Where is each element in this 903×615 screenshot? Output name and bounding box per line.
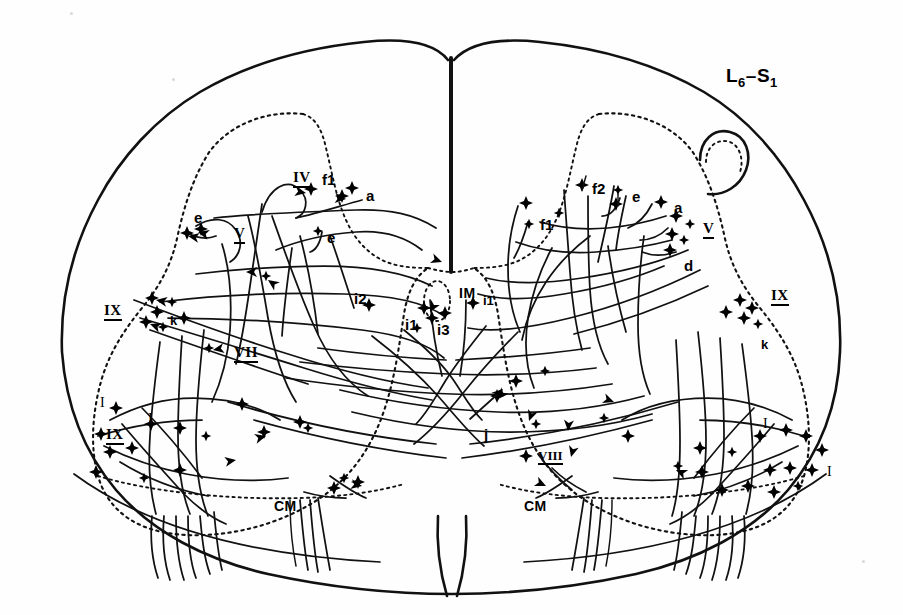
axon-label-k-right: k — [761, 338, 768, 351]
segment-level-label: L6–S1 — [726, 66, 778, 89]
axon-label-i1-right: i1 — [483, 294, 494, 307]
lamina-label-I-right-b: I — [827, 465, 832, 479]
pointer-arrow-j — [470, 385, 506, 419]
axon-label-f1-left: f1 — [322, 172, 335, 187]
axon-label-e-right-1: e — [632, 189, 640, 204]
axon-label-i2: i2 — [354, 291, 367, 306]
lamina-label-I-left-a: I — [100, 396, 105, 410]
lamina-label-IX-right-dorsal: IX — [771, 288, 789, 306]
gray-matter-left — [93, 113, 428, 535]
scan-speck — [862, 560, 865, 563]
axon-label-f1-right: f1 — [540, 217, 553, 232]
lamina-label-IV-left: IV — [293, 170, 311, 188]
axon-label-a-left: a — [366, 188, 374, 203]
lissauer-hook-right-inner — [706, 141, 742, 172]
axon-label-e-left-1: e — [194, 210, 202, 225]
lamina-label-VIII-right: VIII — [538, 449, 563, 465]
lamina-label-VII-left: VII — [234, 345, 258, 363]
axon-label-j: j — [484, 427, 488, 442]
figure-root: .ol{fill:none;stroke:#111;stroke-width:2… — [0, 0, 903, 615]
CM-nucleus-fibers — [290, 454, 612, 572]
axon-label-i3: i3 — [437, 322, 450, 337]
nucleus-label-CM-left: CM — [274, 499, 297, 513]
axon-label-d-right: d — [684, 258, 693, 273]
spinal-cord-drawing: .ol{fill:none;stroke:#111;stroke-width:2… — [0, 0, 903, 615]
nucleus-label-CM-right: CM — [524, 499, 547, 513]
ventral-median-fissure-left — [437, 516, 447, 596]
scan-speck — [172, 78, 175, 81]
axon-label-i1-left: i1 — [405, 317, 418, 332]
axon-label-e-left-2: e — [327, 230, 335, 245]
scan-speck — [70, 12, 73, 15]
neuron-somas-right — [466, 178, 829, 499]
lamina-label-I-left-b: I — [148, 412, 153, 426]
lamina-label-V-left: V — [234, 226, 245, 244]
nucleus-label-IM: IM — [459, 286, 476, 300]
lamina-label-I-right-a: I — [763, 417, 768, 431]
ventral-median-fissure-right — [457, 516, 467, 596]
lamina-label-IX-left-dorsal: IX — [104, 303, 122, 321]
axon-label-a-right: a — [674, 200, 682, 215]
axon-label-k-left: k — [170, 314, 177, 327]
ventral-white-commissure-line — [74, 474, 826, 562]
axon-label-f2-right: f2 — [592, 181, 605, 196]
lamina-label-IX-left-ventral: IX — [106, 427, 124, 445]
lamina-label-V-right: V — [703, 221, 714, 239]
